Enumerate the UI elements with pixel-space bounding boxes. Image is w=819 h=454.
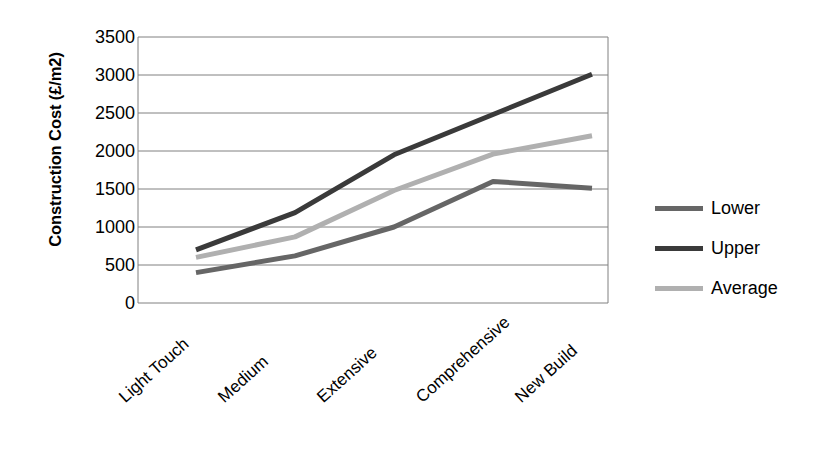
- legend-swatch-icon: [655, 286, 703, 291]
- legend-swatch-icon: [655, 206, 703, 211]
- x-tick-label: Medium: [215, 353, 271, 406]
- x-tick-label: Extensive: [314, 344, 380, 406]
- line-chart: Construction Cost (£/m2) 050010001500200…: [0, 0, 819, 454]
- x-tick-label: New Build: [512, 342, 580, 406]
- x-tick-label: Light Touch: [116, 335, 192, 406]
- legend-label: Average: [711, 279, 778, 297]
- legend-entry-lower[interactable]: Lower: [655, 188, 819, 228]
- x-tick-label: Comprehensive: [413, 313, 513, 405]
- legend-label: Upper: [711, 239, 760, 257]
- legend-swatch-icon: [655, 246, 703, 251]
- legend-entry-upper[interactable]: Upper: [655, 228, 819, 268]
- legend-label: Lower: [711, 199, 760, 217]
- chart-legend: LowerUpperAverage: [655, 188, 819, 308]
- legend-entry-average[interactable]: Average: [655, 268, 819, 308]
